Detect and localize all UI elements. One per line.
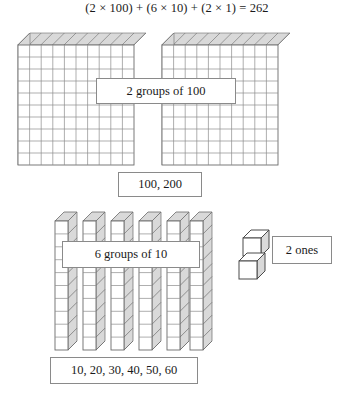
tens-rod-block [139, 212, 161, 350]
tens-rod-graphic [111, 212, 133, 350]
tens-rod-block [111, 212, 133, 350]
ones-cube-graphic [239, 253, 265, 279]
hundreds-skip-count-label: 100, 200 [118, 172, 202, 197]
tens-rod-block [55, 212, 77, 350]
tens-rod-graphic [139, 212, 161, 350]
tens-rod-block [167, 212, 189, 350]
place-value-equation: (2 × 100) + (6 × 10) + (2 × 1) = 262 [0, 1, 354, 16]
tens-skip-count-label: 10, 20, 30, 40, 50, 60 [50, 357, 198, 384]
tens-group-label: 6 groups of 10 [62, 241, 200, 268]
tens-rod-graphic [190, 212, 212, 350]
tens-rod-graphic [55, 212, 77, 350]
tens-rod-block [190, 212, 212, 350]
tens-rod-graphic [167, 212, 189, 350]
ones-unit-cube [239, 253, 265, 279]
tens-rod-graphic [83, 212, 105, 350]
hundreds-group-label: 2 groups of 100 [96, 78, 236, 104]
ones-group-label: 2 ones [272, 236, 332, 264]
tens-rod-block [83, 212, 105, 350]
